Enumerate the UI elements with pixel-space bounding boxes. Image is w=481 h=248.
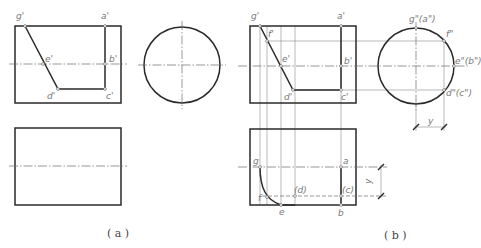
b-front-point-d-marker [292,89,295,92]
b-side-point-f-marker [443,40,446,43]
a-front-point-a-marker [104,25,107,28]
b-top-point-g-label: g [253,156,259,166]
b-front-point-f-marker [266,40,269,43]
orthographic-projection-diagram: g'a'e'b'd'c' ( a ) g'a'f'e'b'd'c' g"(a")… [0,0,481,248]
b-top-point-b-label: b [338,208,344,218]
top-view-outline [15,128,121,205]
b-front-point-b-marker [340,65,343,68]
figure-a-caption: ( a ) [107,227,129,240]
cut-profile [25,26,105,89]
a-front-point-a-label: a' [101,11,109,21]
figure-a-top-view [9,128,127,205]
b-front-point-c-label: c' [341,92,348,102]
figure-b-front-view: g'a'f'e'b'd'c' [238,11,468,103]
b-side-point-e-label: e"(b") [455,56,481,66]
b-top-point-g-marker [259,166,262,169]
b-front-point-a-label: a' [337,11,345,21]
figure-a-side-view [138,21,226,109]
b-top-point-e-marker [280,204,283,207]
b-top-point-e-label: e [279,207,285,217]
b-top-point-b-marker [340,204,343,207]
a-front-point-g-label: g' [16,11,24,21]
figure-b-caption: ( b ) [384,229,407,242]
b-top-point-c-label: (c) [342,185,354,195]
b-top-point-a-marker [340,166,343,169]
b-side-point-d-marker [443,89,446,92]
a-front-point-d-label: d' [47,91,55,101]
a-front-point-d-marker [57,88,60,91]
b-front-point-f-label: f' [268,29,274,39]
b-side-point-f-label: f" [446,29,453,39]
side-dimension-label: y [427,116,434,126]
figure-a: g'a'e'b'd'c' ( a ) [9,11,226,240]
a-front-point-e-marker [42,63,45,66]
b-top-point-d-marker [294,195,297,198]
b-top-point-c-marker [340,195,343,198]
a-front-point-b-label: b' [109,54,117,64]
b-front-point-a-marker [340,25,343,28]
figure-b-side-view: g"(a")f"e"(b")d"(c")y [378,14,481,130]
b-top-point-f-marker [266,196,269,199]
a-front-point-b-marker [104,63,107,66]
b-front-point-g-label: g' [251,11,259,21]
b-top-point-f-label: f [258,193,263,203]
b-top-point-d-label: (d) [294,185,307,195]
figure-b: g'a'f'e'b'd'c' g"(a")f"e"(b")d"(c")y gaf… [238,11,481,242]
b-front-point-b-label: b' [344,56,352,66]
b-side-point-g-label: g"(a") [409,14,436,24]
intersection-curve [260,167,281,205]
figure-b-projection-lines [260,26,444,205]
figure-b-top-view: gaf(d)(c)eby [238,129,387,218]
b-front-point-e-label: e' [282,54,290,64]
b-front-point-g-marker [259,25,262,28]
b-side-point-g-marker [415,27,418,30]
a-front-point-c-label: c' [106,91,113,101]
b-front-point-e-marker [280,65,283,68]
drawing-sheet: g'a'e'b'd'c' ( a ) g'a'f'e'b'd'c' g"(a")… [0,0,481,248]
a-front-point-c-marker [104,88,107,91]
top-dimension-label: y [363,178,373,185]
b-side-point-d-label: d"(c") [446,88,472,98]
b-front-point-c-marker [340,89,343,92]
b-top-point-a-label: a [343,156,349,166]
a-front-point-g-marker [24,25,27,28]
a-front-point-e-label: e' [45,54,53,64]
figure-a-front-view: g'a'e'b'd'c' [9,11,127,103]
b-front-point-d-label: d' [284,92,292,102]
